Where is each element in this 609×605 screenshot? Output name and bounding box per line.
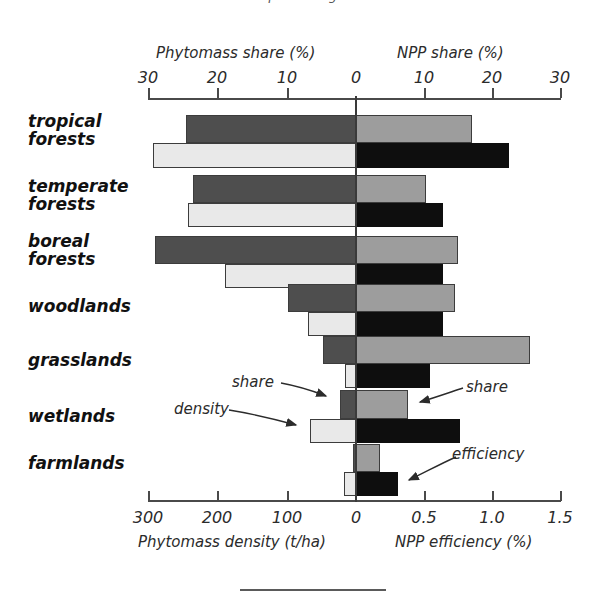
bar-npp-share-grasslands [355,336,530,364]
bar-npp-share-woodlands [355,284,455,312]
tick-label-top-3: 0 [351,68,361,87]
category-label-temperate-forests: temperate forests [28,178,129,214]
bar-npp-efficiency-woodlands [355,312,443,336]
category-label-woodlands: woodlands [28,298,131,316]
tick-label-top-4: 10 [414,68,434,87]
category-label-farmlands: farmlands [28,455,125,473]
bar-npp-share-temperate-forests [355,175,426,203]
bar-phytomass-share-tropical-forests [186,115,356,143]
category-label-wetlands: wetlands [28,408,115,426]
tick-label-top-0: 30 [138,68,158,87]
bar-phytomass-density-wetlands [310,419,356,443]
footer-rule [240,589,386,591]
bar-npp-share-boreal-forests [355,236,458,264]
tick-mark-top-4 [424,88,426,98]
tick-label-bottom-5: 1.0 [479,508,504,527]
tick-mark-bottom-2 [287,491,289,501]
bar-phytomass-density-woodlands [308,312,356,336]
axis-caption-phytomass-share: Phytomass share (%) [156,44,315,62]
annotation-share-left: share [232,373,274,391]
category-label-tropical-forests: tropical forests [28,113,102,149]
bar-phytomass-share-woodlands [288,284,356,312]
tick-mark-bottom-0 [148,491,150,501]
bar-npp-efficiency-grasslands [355,364,430,388]
tick-mark-bottom-6 [560,491,562,501]
tick-label-top-1: 20 [207,68,227,87]
tick-mark-bottom-5 [492,491,494,501]
tick-label-bottom-3: 0 [351,508,361,527]
bar-npp-efficiency-tropical-forests [355,143,509,168]
tick-label-bottom-1: 200 [202,508,233,527]
cropped-title-text: the plant kingdom [0,0,609,3]
tick-label-top-6: 30 [550,68,570,87]
annotation-efficiency: efficiency [452,445,525,463]
category-label-boreal-forests: boreal forests [28,233,95,269]
bar-npp-share-tropical-forests [355,115,472,143]
axis-caption-phytomass-density: Phytomass density (t/ha) [138,533,326,551]
bar-npp-share-farmlands [355,444,380,472]
tick-mark-bottom-4 [424,491,426,501]
tick-mark-top-2 [287,88,289,98]
bar-phytomass-density-temperate-forests [188,203,356,227]
category-label-grasslands: grasslands [28,352,132,370]
tick-label-top-2: 10 [277,68,297,87]
bar-npp-efficiency-wetlands [355,419,460,443]
tick-mark-top-0 [148,88,150,98]
bar-phytomass-density-tropical-forests [153,143,356,168]
bar-phytomass-share-grasslands [323,336,356,364]
axis-caption-npp-efficiency: NPP efficiency (%) [395,533,532,551]
tick-mark-top-5 [492,88,494,98]
tick-label-bottom-4: 0.5 [411,508,436,527]
annotation-share-right: share [466,378,508,396]
bar-phytomass-share-boreal-forests [155,236,356,264]
zero-axis-line [355,96,357,502]
bar-npp-efficiency-farmlands [355,472,398,496]
tick-label-top-5: 20 [482,68,502,87]
tick-label-bottom-0: 300 [133,508,164,527]
tick-mark-bottom-1 [217,491,219,501]
bar-phytomass-share-wetlands [340,390,356,419]
tick-mark-top-6 [560,88,562,98]
bar-phytomass-share-temperate-forests [193,175,356,203]
axis-caption-npp-share: NPP share (%) [397,44,504,62]
annotation-density: density [174,400,229,418]
tick-label-bottom-6: 1.5 [547,508,572,527]
cropped-title-strip: the plant kingdom [0,0,609,6]
bar-npp-share-wetlands [355,390,408,419]
tick-label-bottom-2: 100 [272,508,303,527]
tick-mark-top-1 [217,88,219,98]
bar-npp-efficiency-temperate-forests [355,203,443,227]
chart-figure: the plant kingdom Phytomass share (%) NP… [0,0,609,605]
